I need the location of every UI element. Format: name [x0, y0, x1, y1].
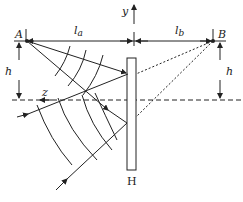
label-hologram: H	[127, 175, 137, 188]
label-y: y	[121, 5, 129, 18]
object-ray-1	[27, 41, 126, 73]
label-z: z	[41, 86, 48, 99]
point-b-dot	[211, 39, 215, 43]
reference-beam-1	[17, 114, 28, 117]
label-a: A	[14, 28, 23, 41]
point-a-dot	[25, 39, 29, 43]
diagram-canvas: A B la lb h h y z H	[0, 0, 243, 202]
label-h-right: h	[226, 65, 233, 78]
virtual-ray-2	[136, 41, 213, 117]
label-h-left: h	[5, 65, 12, 78]
hologram-plate	[127, 58, 136, 170]
virtual-ray-1	[136, 41, 213, 74]
label-la: la	[74, 24, 83, 38]
label-lb: lb	[175, 24, 185, 38]
holography-diagram: A B la lb h h y z H	[0, 0, 243, 202]
label-b: B	[217, 28, 226, 41]
reference-beam-2	[56, 179, 67, 190]
